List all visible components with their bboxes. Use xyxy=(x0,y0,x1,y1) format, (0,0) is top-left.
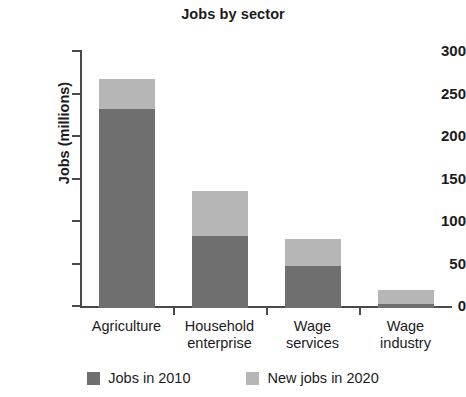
bar-segment-new-jobs-2020 xyxy=(99,79,155,109)
bar-segment-new-jobs-2020 xyxy=(378,290,434,304)
legend-swatch-icon xyxy=(246,372,259,385)
bar-group xyxy=(378,290,434,308)
bar-segment-new-jobs-2020 xyxy=(192,191,248,236)
bar-segment-jobs-2010 xyxy=(192,236,248,308)
bar-group xyxy=(285,239,341,308)
legend-label: Jobs in 2010 xyxy=(108,370,190,386)
y-axis-title: Jobs (millions) xyxy=(56,38,72,228)
bar-segment-jobs-2010 xyxy=(285,266,341,309)
bar-segment-jobs-2010 xyxy=(99,109,155,308)
category-label-line: Household xyxy=(173,318,266,335)
legend-swatch-icon xyxy=(87,372,100,385)
stacked-bar xyxy=(99,79,155,308)
plot-area xyxy=(80,48,452,308)
legend-label: New jobs in 2020 xyxy=(267,370,378,386)
legend-item[interactable]: New jobs in 2020 xyxy=(246,370,378,386)
stacked-bar xyxy=(285,239,341,308)
category-label-line: Agriculture xyxy=(80,318,173,335)
bar-group xyxy=(99,79,155,308)
x-axis-category-label: Wageservices xyxy=(266,318,359,353)
bar-segment-new-jobs-2020 xyxy=(285,239,341,265)
category-label-line: Wage xyxy=(359,318,452,335)
stacked-bar xyxy=(378,290,434,308)
stacked-bar xyxy=(192,191,248,308)
chart-title: Jobs by sector xyxy=(0,6,466,22)
category-label-line: industry xyxy=(359,335,452,352)
legend-item[interactable]: Jobs in 2010 xyxy=(87,370,190,386)
x-axis-category-label: Agriculture xyxy=(80,318,173,335)
category-label-line: Wage xyxy=(266,318,359,335)
jobs-by-sector-chart: Jobs by sector 050100150200250300 Jobs (… xyxy=(0,0,466,397)
x-axis-category-label: Householdenterprise xyxy=(173,318,266,353)
category-label-line: services xyxy=(266,335,359,352)
chart-legend: Jobs in 2010New jobs in 2020 xyxy=(0,370,466,386)
category-label-line: enterprise xyxy=(173,335,266,352)
bar-segment-jobs-2010 xyxy=(378,304,434,308)
x-axis-category-label: Wageindustry xyxy=(359,318,452,353)
bar-group xyxy=(192,191,248,308)
